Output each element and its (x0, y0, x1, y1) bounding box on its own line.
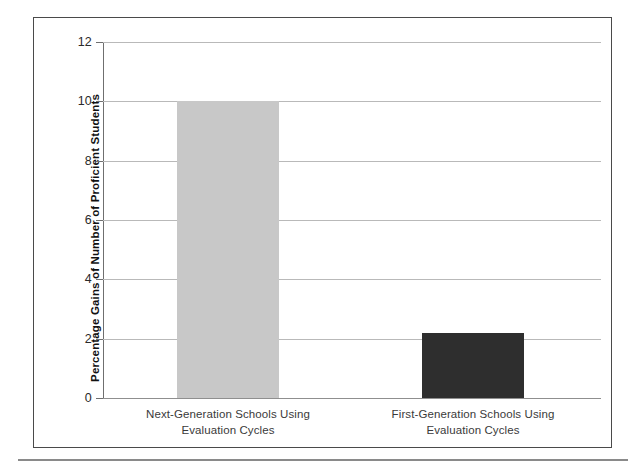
tickmark-8 (96, 161, 103, 162)
x-axis-label-first-generation-schools: First-Generation Schools Using Evaluatio… (392, 407, 555, 438)
bar-first-generation-schools[interactable] (422, 333, 524, 398)
x-axis-label-line2: Evaluation Cycles (146, 423, 310, 439)
x-axis-label-line2: Evaluation Cycles (392, 423, 555, 439)
y-tick-label-0: 0 (85, 391, 92, 405)
y-tick-label-4: 4 (85, 272, 92, 286)
bar-next-generation-schools[interactable] (177, 101, 279, 398)
y-tick-label-2: 2 (85, 332, 92, 346)
x-axis-label-line1: Next-Generation Schools Using (146, 407, 310, 423)
plot-area: 12 10 8 6 4 2 (103, 42, 601, 398)
y-tick-label-12: 12 (78, 35, 92, 49)
x-axis-label-line1: First-Generation Schools Using (392, 407, 555, 423)
gridline-0-baseline: 0 (103, 398, 601, 399)
tickmark-10 (96, 101, 103, 102)
gridline-12: 12 (103, 42, 601, 43)
tickmark-12 (96, 42, 103, 43)
tickmark-6 (96, 220, 103, 221)
tickmark-4 (96, 279, 103, 280)
y-tick-label-6: 6 (85, 213, 92, 227)
figure-root: Percentage Gains of Number of Proficient… (0, 0, 642, 468)
x-axis-label-next-generation-schools: Next-Generation Schools Using Evaluation… (146, 407, 310, 438)
tickmark-0 (96, 398, 103, 399)
bottom-horizontal-rule (18, 459, 628, 461)
y-tick-label-8: 8 (85, 154, 92, 168)
y-tick-label-10: 10 (78, 94, 92, 108)
tickmark-2 (96, 339, 103, 340)
chart-frame: Percentage Gains of Number of Proficient… (33, 17, 612, 448)
y-axis-title: Percentage Gains of Number of Proficient… (86, 78, 104, 398)
